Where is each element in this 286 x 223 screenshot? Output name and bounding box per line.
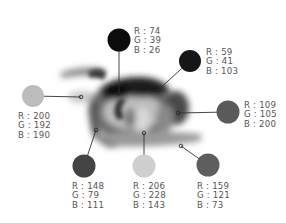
rgb-label-right: R : 109G : 105B : 200 — [244, 101, 277, 129]
swatch-circle-bottom-right — [197, 154, 220, 177]
rgb-label-b-value: B : 111 — [72, 201, 104, 210]
rgb-label-b-value: B : 26 — [134, 46, 161, 55]
swatch-circle-top — [108, 29, 131, 52]
swatch-circle-right — [217, 101, 240, 124]
swatch-circle-bottom-center — [133, 155, 156, 178]
rgb-label-bottom-center: R : 206G : 228B : 143 — [133, 182, 166, 210]
rgb-label-b-value: B : 103 — [206, 67, 238, 76]
rgb-label-b-value: B : 200 — [244, 120, 277, 129]
swatch-circle-upper-right — [179, 50, 201, 72]
rgb-label-upper-right: R : 59G : 41B : 103 — [206, 48, 238, 76]
rgb-label-b-value: B : 143 — [133, 201, 166, 210]
rgb-label-left: R : 200G : 192B : 190 — [18, 112, 51, 140]
swatch-circle-left — [22, 85, 44, 107]
rgb-label-bottom-right: R : 159G : 121B : 73 — [197, 182, 230, 210]
rgb-label-top: R : 74G : 39B : 26 — [134, 27, 161, 55]
rgb-label-bottom-left: R : 148G : 79B : 111 — [72, 182, 104, 210]
swatch-circle-bottom-left — [73, 155, 96, 178]
insect-specimen-image — [60, 68, 202, 148]
rgb-label-b-value: B : 190 — [18, 131, 51, 140]
color-sampling-diagram: R : 74G : 39B : 26R : 59G : 41B : 103R :… — [0, 0, 286, 223]
rgb-label-b-value: B : 73 — [197, 201, 230, 210]
